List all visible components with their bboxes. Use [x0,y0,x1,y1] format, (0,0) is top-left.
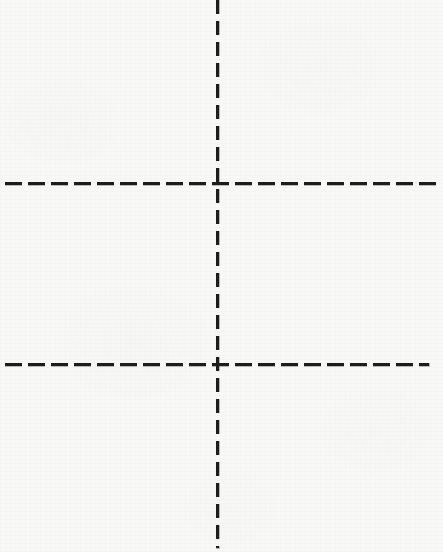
horizontal-upper-dashed-line [5,182,441,185]
diagram-canvas [0,0,443,552]
vertical-center-dashed-line [216,0,219,548]
dashed-line-layer [0,0,443,552]
